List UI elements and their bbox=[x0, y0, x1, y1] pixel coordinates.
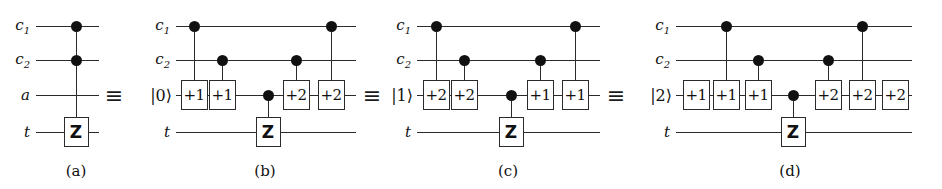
control-dot bbox=[721, 21, 732, 32]
qubit-label-subscript: 1 bbox=[664, 25, 670, 36]
qubit-label-c2: c2 bbox=[655, 50, 670, 70]
increment-gate: +1 bbox=[745, 80, 772, 110]
panel-caption-d: (d) bbox=[779, 162, 800, 180]
control-dot bbox=[753, 55, 764, 66]
qubit-label-target: t bbox=[664, 123, 670, 141]
qubit-label-subscript: 2 bbox=[664, 59, 670, 70]
increment-gate: +2 bbox=[882, 80, 909, 110]
increment-gate: +1 bbox=[683, 80, 710, 110]
control-dot bbox=[823, 55, 834, 66]
qubit-label-ancilla: |2⟩ bbox=[650, 86, 672, 105]
control-dot bbox=[857, 21, 868, 32]
control-dot bbox=[788, 90, 799, 101]
increment-gate: +1 bbox=[713, 80, 740, 110]
wire-c1 bbox=[676, 26, 912, 27]
qubit-label-c1: c1 bbox=[655, 16, 670, 36]
circuit-panel-d: +1+1+1+2+2+2Zc1c2|2⟩t(d) bbox=[0, 0, 942, 189]
quantum-circuit-figure: Zc1c2at≡(a)+1+1+2+2Zc1c2|0⟩t≡(b)+2+2+1+1… bbox=[0, 0, 942, 189]
increment-gate: +2 bbox=[815, 80, 842, 110]
increment-gate: +2 bbox=[849, 80, 876, 110]
z-gate: Z bbox=[781, 117, 806, 147]
wire-c2 bbox=[676, 60, 912, 61]
